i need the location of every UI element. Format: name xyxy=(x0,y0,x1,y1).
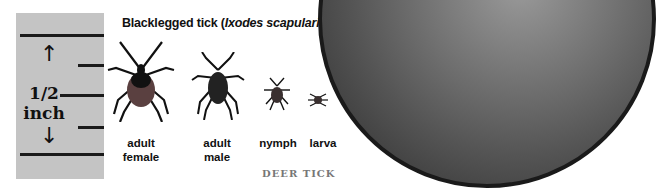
ruler-mark-three-quarter xyxy=(78,126,104,129)
caption-deer-tick: DEER TICK xyxy=(262,168,335,179)
tick-nymph-icon xyxy=(260,74,294,112)
tick-adult-male-icon xyxy=(190,52,246,120)
label-nymph: nymph xyxy=(256,136,300,150)
ruler-mark-quarter xyxy=(78,64,104,67)
tick-larva-icon xyxy=(306,90,330,110)
ruler-half-inch: ↑ 1/2 inch ↓ xyxy=(16,13,104,179)
arrow-down-icon: ↓ xyxy=(40,125,58,147)
label-larva: larva xyxy=(306,136,340,150)
label-adult-female: adultfemale xyxy=(116,136,166,164)
dime-coin xyxy=(318,0,656,188)
tick-adult-female-icon xyxy=(106,40,176,122)
ruler-mark-bottom xyxy=(20,153,104,156)
ruler-mark-top xyxy=(20,34,104,37)
ruler-label: 1/2 inch xyxy=(19,83,69,123)
label-adult-male: adultmale xyxy=(192,136,242,164)
arrow-up-icon: ↑ xyxy=(40,43,58,65)
figure-title: Blacklegged tick (Ixodes scapularis) xyxy=(122,16,330,30)
